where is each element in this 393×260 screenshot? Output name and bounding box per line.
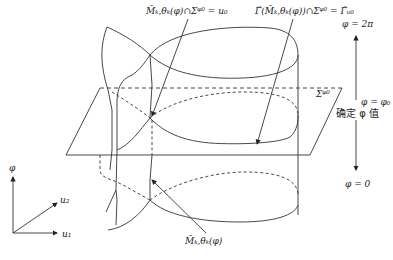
plane-curve-dashed bbox=[150, 92, 298, 118]
label-phi-phi0: φ = φ₀ bbox=[361, 98, 390, 107]
plane-sigma bbox=[66, 88, 342, 155]
label-axis-u1: u₁ bbox=[62, 230, 71, 239]
label-phi-0: φ = 0 bbox=[345, 180, 370, 189]
label-gamma-intersection: Γ̃(M̃ₖ,θₖ(φ))∩Σᵠ⁰ = Γ̃ᵤ₀ bbox=[255, 7, 354, 16]
label-axis-u2: u₂ bbox=[60, 196, 69, 205]
cylinder-top-ellipse bbox=[150, 27, 298, 78]
diagram-canvas: M̃ₖ,θₖ(φ)∩Σᵠ⁰ = u₀ Γ̃(M̃ₖ,θₖ(φ))∩Σᵠ⁰ = Γ… bbox=[0, 0, 393, 260]
label-fixed-phi: 确定 φ 值 bbox=[336, 109, 379, 119]
label-manifold-intersection: M̃ₖ,θₖ(φ)∩Σᵠ⁰ = u₀ bbox=[146, 7, 228, 16]
diagram-drawing bbox=[0, 0, 393, 260]
coordinate-axes bbox=[13, 177, 57, 233]
cylinder-bottom-curve bbox=[150, 200, 298, 222]
surface-wing-upper bbox=[102, 27, 112, 170]
label-plane-sigma: Σᵠ⁰ bbox=[316, 90, 330, 99]
label-manifold-bottom: M̃ₖ,θₖ(φ) bbox=[185, 237, 222, 246]
plane-curve-solid bbox=[150, 115, 298, 144]
label-axis-phi: φ bbox=[9, 164, 15, 173]
label-phi-2pi: φ = 2π bbox=[342, 20, 373, 29]
